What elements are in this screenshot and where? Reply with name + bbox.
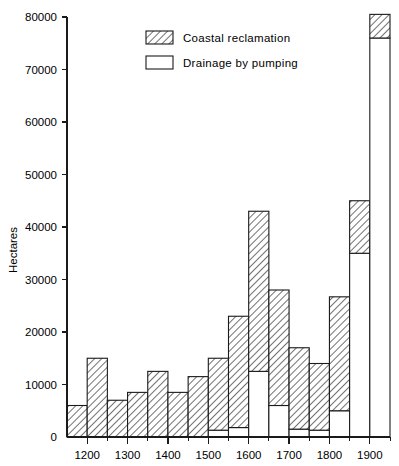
bar-1800-1850 xyxy=(329,297,349,437)
x-tick-label: 1500 xyxy=(196,449,222,461)
segment-coastal-reclamation xyxy=(309,364,329,431)
segment-drainage-by-pumping xyxy=(350,253,370,437)
bar-1250-1300 xyxy=(107,400,127,437)
x-tick-label: 1300 xyxy=(115,449,141,461)
segment-coastal-reclamation xyxy=(87,358,107,437)
y-tick-label: 0 xyxy=(51,431,57,443)
segment-coastal-reclamation xyxy=(289,348,309,429)
segment-coastal-reclamation xyxy=(269,290,289,406)
segment-coastal-reclamation xyxy=(229,316,249,427)
y-tick-label: 70000 xyxy=(25,64,57,76)
segment-drainage-by-pumping xyxy=(309,430,329,437)
legend-label-coastal-reclamation: Coastal reclamation xyxy=(183,32,290,44)
y-tick-label: 10000 xyxy=(25,379,57,391)
y-tick-label: 40000 xyxy=(25,221,57,233)
x-tick-label: 1600 xyxy=(236,449,262,461)
segment-drainage-by-pumping xyxy=(269,406,289,438)
bar-1650-1700 xyxy=(269,290,289,437)
segment-coastal-reclamation xyxy=(128,392,148,437)
segment-drainage-by-pumping xyxy=(329,411,349,437)
segment-coastal-reclamation xyxy=(329,297,349,411)
bar-1900-1950 xyxy=(370,14,390,437)
legend-swatch-drainage-by-pumping xyxy=(146,56,173,69)
segment-coastal-reclamation xyxy=(370,14,390,38)
y-tick-label: 30000 xyxy=(25,274,57,286)
segment-drainage-by-pumping xyxy=(289,429,309,437)
legend-swatch-coastal-reclamation xyxy=(146,31,173,44)
y-tick-label: 20000 xyxy=(25,326,57,338)
bar-1750-1800 xyxy=(309,364,329,438)
x-tick-label: 1400 xyxy=(155,449,181,461)
bar-1200-1250 xyxy=(87,358,107,437)
y-axis-title: Hectares xyxy=(7,227,19,273)
x-tick-label: 1200 xyxy=(74,449,100,461)
bar-1500-1550 xyxy=(208,358,228,437)
legend-label-drainage-by-pumping: Drainage by pumping xyxy=(183,57,298,69)
segment-drainage-by-pumping xyxy=(208,430,228,437)
bar-1450-1500 xyxy=(188,377,208,437)
y-tick-label: 60000 xyxy=(25,116,57,128)
x-tick-label: 1800 xyxy=(317,449,343,461)
segment-coastal-reclamation xyxy=(148,371,168,437)
y-tick-label: 80000 xyxy=(25,11,57,23)
segment-coastal-reclamation xyxy=(67,406,87,438)
bar-1550-1600 xyxy=(229,316,249,437)
stacked-histogram: 0100002000030000400005000060000700008000… xyxy=(0,0,399,466)
segment-coastal-reclamation xyxy=(168,392,188,437)
x-tick-label: 1900 xyxy=(357,449,383,461)
x-tick-label: 1700 xyxy=(276,449,302,461)
chart-container: 0100002000030000400005000060000700008000… xyxy=(0,0,399,466)
bar-1300-1350 xyxy=(128,392,148,437)
segment-coastal-reclamation xyxy=(249,211,269,371)
bar-1400-1450 xyxy=(168,392,188,437)
segment-drainage-by-pumping xyxy=(229,428,249,437)
segment-coastal-reclamation xyxy=(188,377,208,437)
bar-1350-1400 xyxy=(148,371,168,437)
bar-1850-1900 xyxy=(350,201,370,437)
y-tick-label: 50000 xyxy=(25,169,57,181)
segment-coastal-reclamation xyxy=(208,358,228,430)
bar-1600-1650 xyxy=(249,211,269,437)
bar-1150-1200 xyxy=(67,406,87,438)
segment-coastal-reclamation xyxy=(350,201,370,254)
segment-coastal-reclamation xyxy=(107,400,127,437)
bar-1700-1750 xyxy=(289,348,309,437)
segment-drainage-by-pumping xyxy=(249,371,269,437)
segment-drainage-by-pumping xyxy=(370,38,390,437)
